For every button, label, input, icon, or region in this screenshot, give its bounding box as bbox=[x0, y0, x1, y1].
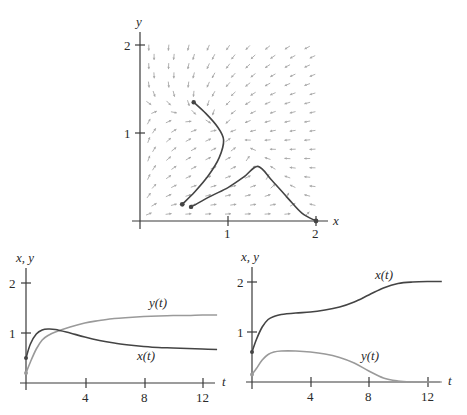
left-t-ticklabel-4: 4 bbox=[82, 390, 89, 405]
left-y-curve-label: y(t) bbox=[147, 295, 167, 310]
curve-y(t) bbox=[252, 351, 442, 382]
phase-x-ticklabel-2: 2 bbox=[312, 226, 319, 241]
right-t-ticklabel-8: 8 bbox=[365, 389, 372, 404]
left-xy-label: x, y bbox=[15, 250, 34, 265]
curve-x(t) bbox=[252, 281, 442, 352]
phase-y-ticklabel-2: 2 bbox=[124, 38, 131, 53]
trajectories bbox=[180, 100, 319, 223]
right-t-ticklabel-12: 12 bbox=[421, 389, 434, 404]
phase-x-ticklabel-1: 1 bbox=[224, 226, 231, 241]
figure: 1 2 1 2 x y 4 8 12 1 2 t x, y y(t) x(t) bbox=[0, 0, 467, 415]
phase-y-label: y bbox=[134, 14, 142, 29]
time-series-plot-right: 4 8 12 1 2 t x, y x(t) y(t) bbox=[237, 249, 452, 404]
time-series-plot-left: 4 8 12 1 2 t x, y y(t) x(t) bbox=[9, 250, 226, 405]
right-t-ticklabel-4: 4 bbox=[307, 389, 314, 404]
left-y-ticklabel-2: 2 bbox=[9, 276, 16, 291]
phase-x-label: x bbox=[332, 213, 339, 228]
right-y-curve-label: y(t) bbox=[359, 348, 379, 363]
right-xy-label: x, y bbox=[240, 249, 259, 264]
curve-x(t) bbox=[26, 329, 217, 358]
trajectory-1 bbox=[182, 102, 223, 204]
left-t-ticklabel-8: 8 bbox=[141, 390, 148, 405]
right-curves bbox=[250, 281, 442, 382]
phase-plane-plot: 1 2 1 2 x y bbox=[124, 14, 339, 241]
left-curves bbox=[24, 315, 217, 375]
left-y-ticklabel-1: 1 bbox=[9, 326, 16, 341]
left-t-label: t bbox=[222, 374, 226, 389]
right-x-curve-label: x(t) bbox=[374, 267, 393, 282]
right-t-label: t bbox=[448, 373, 452, 388]
phase-y-ticklabel-1: 1 bbox=[124, 126, 131, 141]
right-y-ticklabel-2: 2 bbox=[237, 275, 244, 290]
direction-field bbox=[146, 45, 315, 216]
left-x-curve-label: x(t) bbox=[136, 348, 155, 363]
right-y-ticklabel-1: 1 bbox=[237, 325, 244, 340]
left-t-ticklabel-12: 12 bbox=[196, 390, 209, 405]
